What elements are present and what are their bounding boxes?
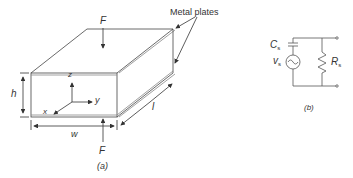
axis-x-label: x bbox=[43, 108, 47, 116]
diagram-canvas bbox=[0, 0, 353, 178]
caption-b: (b) bbox=[304, 104, 314, 112]
source-subscript: s bbox=[278, 61, 281, 67]
caption-a: (a) bbox=[97, 162, 108, 171]
force-label-bottom: F bbox=[99, 146, 105, 156]
axis-z-label: z bbox=[68, 71, 72, 79]
capacitor-subscript: s bbox=[277, 45, 280, 51]
metal-plates-label: Metal plates bbox=[170, 8, 219, 17]
resistor-subscript: s bbox=[338, 62, 341, 68]
axis-y-label: y bbox=[95, 96, 100, 105]
height-label: h bbox=[11, 89, 17, 99]
resistor-label: Rs bbox=[331, 57, 341, 68]
force-label-top: F bbox=[100, 16, 106, 26]
capacitor-label: Cs bbox=[270, 40, 280, 51]
width-label: w bbox=[71, 130, 78, 139]
source-label: vs bbox=[273, 56, 281, 67]
length-label: l bbox=[152, 102, 154, 112]
